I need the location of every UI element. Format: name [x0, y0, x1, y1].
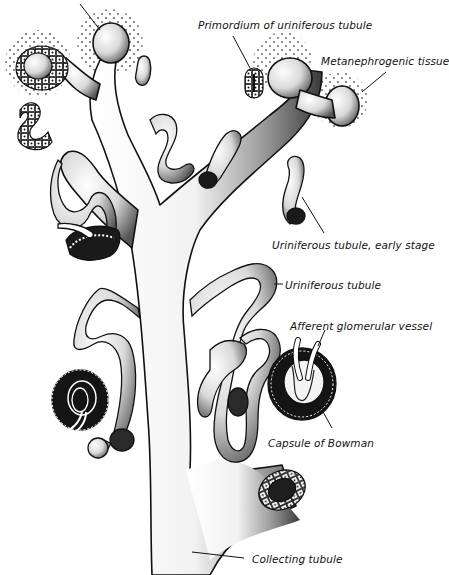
- left-lower-nephron: [52, 288, 140, 458]
- label-metanephrogenic-tissue: Metanephrogenic tissue: [321, 55, 449, 67]
- label-primordium: Primordium of uriniferous tubule: [198, 19, 372, 31]
- right-uriniferous-tubule: [190, 264, 280, 463]
- label-collecting-tubule: Collecting tubule: [252, 553, 343, 565]
- s-shaped-body-left: [18, 103, 52, 150]
- label-uriniferous-tubule-early: Uriniferous tubule, early stage: [272, 239, 435, 251]
- label-afferent-glomerular-vessel: Afferent glomerular vessel: [290, 320, 432, 332]
- primordium-tubule: [245, 68, 263, 98]
- label-uriniferous-tubule: Uriniferous tubule: [285, 279, 381, 291]
- left-ampulla: [16, 46, 68, 90]
- label-capsule-of-bowman: Capsule of Bowman: [268, 437, 374, 449]
